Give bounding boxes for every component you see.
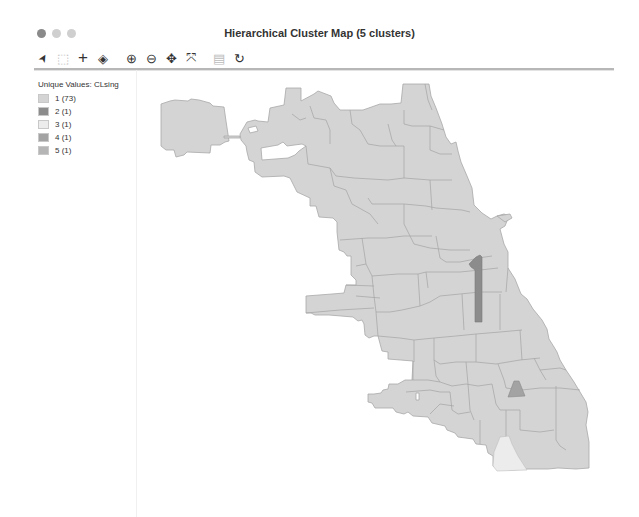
select-rect-tool-icon[interactable]: ⬚ [54, 49, 72, 67]
legend-swatch-4[interactable] [38, 133, 49, 142]
zoom-out-icon[interactable]: ⊖ [142, 49, 160, 67]
legend-label-3: 3 (1) [55, 120, 71, 129]
legend-label-2: 2 (1) [55, 107, 71, 116]
legend-swatch-5[interactable] [38, 146, 49, 155]
ohare-area [161, 99, 229, 157]
legend-swatch-1[interactable] [38, 94, 49, 103]
legend-label-1: 1 (73) [55, 94, 76, 103]
map-canvas[interactable] [137, 70, 639, 517]
cluster-map-window: Hierarchical Cluster Map (5 clusters) ➤ … [0, 0, 639, 517]
legend-swatch-3[interactable] [38, 120, 49, 129]
title-bar: Hierarchical Cluster Map (5 clusters) [0, 26, 639, 42]
legend-swatch-2[interactable] [38, 107, 49, 116]
legend-panel: Unique Values: CLsing 1 (73) 2 (1) 3 (1)… [38, 80, 136, 157]
legend-item-5[interactable]: 5 (1) [38, 144, 136, 156]
zoom-in-icon[interactable]: ⊕ [122, 49, 140, 67]
pan-icon[interactable]: ✥ [162, 49, 180, 67]
layers-tool-icon[interactable]: ◈ [94, 49, 112, 67]
choropleth-map[interactable] [137, 70, 639, 517]
legend-item-3[interactable]: 3 (1) [38, 118, 136, 130]
legend-title: Unique Values: CLsing [38, 80, 136, 89]
legend-item-1[interactable]: 1 (73) [38, 92, 136, 104]
legend-label-4: 4 (1) [55, 133, 71, 142]
legend-label-5: 5 (1) [55, 146, 71, 155]
refresh-icon[interactable]: ↻ [230, 49, 248, 67]
legend-item-4[interactable]: 4 (1) [38, 131, 136, 143]
select-tool-icon[interactable]: ➤ [31, 46, 56, 71]
window-title: Hierarchical Cluster Map (5 clusters) [0, 27, 639, 39]
fit-extent-icon[interactable]: ⤧ [182, 49, 200, 67]
city-main-body [240, 84, 589, 470]
save-icon[interactable]: ▤ [210, 49, 228, 67]
map-toolbar: ➤ ⬚ + ◈ ⊕ ⊖ ✥ ⤧ ▤ ↻ [34, 48, 250, 68]
legend-item-2[interactable]: 2 (1) [38, 105, 136, 117]
add-tool-icon[interactable]: + [74, 49, 92, 67]
